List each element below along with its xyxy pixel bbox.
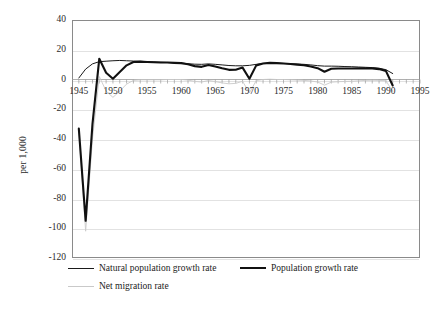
legend-row-1: Natural population growth rate Populatio… — [68, 262, 440, 280]
line-chart: per 1,000 40200-20-40-60-80-100-120 1945… — [0, 0, 446, 309]
legend-line-icon-dotted — [68, 286, 94, 287]
legend-entry-net-migration-rate: Net migration rate — [68, 280, 169, 292]
legend-label-net-migration-rate: Net migration rate — [99, 280, 169, 292]
y-tick-label: -60 — [26, 163, 66, 173]
legend-line-icon-thin — [68, 268, 94, 269]
y-tick-label: 20 — [26, 44, 66, 54]
y-tick-label: -20 — [26, 103, 66, 113]
legend-row-2: Net migration rate — [68, 280, 440, 298]
chart-legend: Natural population growth rate Populatio… — [68, 262, 440, 298]
y-axis-title: per 1,000 — [18, 110, 28, 200]
legend-label-population-growth-rate: Population growth rate — [271, 262, 358, 274]
legend-entry-natural-population-growth-rate: Natural population growth rate — [68, 262, 216, 274]
gridline — [73, 259, 419, 260]
x-tick-label: 1995 — [398, 86, 442, 96]
y-tick-label: -120 — [26, 252, 66, 262]
series-line-net-migration-rate — [79, 77, 393, 232]
y-tick-label: -100 — [26, 222, 66, 232]
y-tick-label: 0 — [26, 74, 66, 84]
series-layer — [72, 20, 420, 258]
legend-label-natural-population-growth-rate: Natural population growth rate — [99, 262, 216, 274]
y-tick-label: -80 — [26, 193, 66, 203]
y-tick-label: 40 — [26, 14, 66, 24]
legend-line-icon-thick — [240, 267, 266, 269]
legend-entry-population-growth-rate: Population growth rate — [240, 262, 358, 274]
y-tick-label: -40 — [26, 133, 66, 143]
